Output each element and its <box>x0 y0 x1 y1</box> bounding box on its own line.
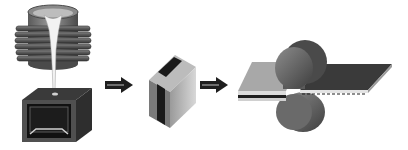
process-diagram <box>0 0 408 150</box>
arrow-right-icon <box>105 77 133 93</box>
rolling-stage <box>238 40 392 132</box>
mold-icon <box>22 88 92 142</box>
arrow-right-icon <box>200 77 228 93</box>
ingot-block-icon <box>149 55 196 128</box>
casting-stage <box>15 5 92 142</box>
furnace-icon <box>15 5 91 92</box>
